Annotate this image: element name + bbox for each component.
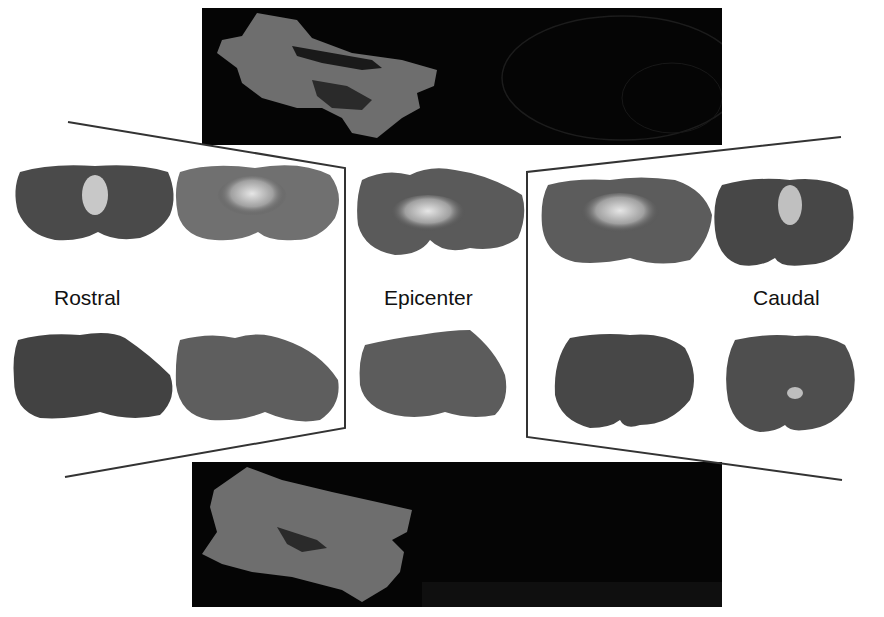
caudal-section-4 (726, 335, 855, 432)
rostral-label: Rostral (54, 286, 121, 310)
rostral-section-1 (15, 165, 173, 240)
rostral-section-2 (176, 165, 339, 240)
caudal-section-1 (542, 178, 712, 264)
epicenter-section-1 (357, 168, 524, 255)
caudal-section-3 (555, 334, 694, 428)
caudal-section-2 (714, 179, 853, 266)
rostral-section-3 (14, 333, 173, 418)
epicenter-section-2 (360, 330, 507, 417)
caudal-label: Caudal (753, 286, 820, 310)
epicenter-label: Epicenter (384, 286, 473, 310)
rostral-section-4 (176, 334, 339, 421)
